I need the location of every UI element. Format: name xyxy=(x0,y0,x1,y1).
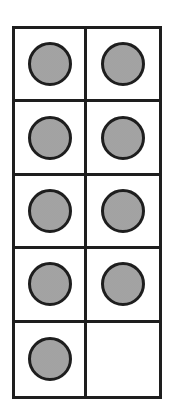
counter-circle-icon xyxy=(28,116,72,160)
grid-cell xyxy=(15,102,87,175)
grid-cell xyxy=(87,249,159,322)
grid-cell xyxy=(87,29,159,102)
grid-cell xyxy=(87,323,159,396)
counter-circle-icon xyxy=(28,262,72,306)
counter-circle-icon xyxy=(28,189,72,233)
counter-circle-icon xyxy=(28,42,72,86)
counter-circle-icon xyxy=(101,189,145,233)
counter-circle-icon xyxy=(101,42,145,86)
counter-circle-icon xyxy=(28,337,72,381)
grid-cell xyxy=(15,323,87,396)
grid-cell xyxy=(15,29,87,102)
grid-cell xyxy=(15,176,87,249)
counter-circle-icon xyxy=(101,116,145,160)
counter-circle-icon xyxy=(101,262,145,306)
ten-frame-grid xyxy=(12,26,162,399)
grid-cell xyxy=(87,176,159,249)
grid-cell xyxy=(15,249,87,322)
grid-cell xyxy=(87,102,159,175)
